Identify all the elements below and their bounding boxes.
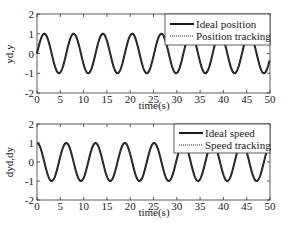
x-tick-label: 40 (218, 200, 230, 212)
y-tick-label: 0 (29, 48, 35, 60)
x-axis-label: time(s) (138, 99, 169, 112)
y-tick-label: -2 (25, 87, 34, 99)
x-axis-label: time(s) (138, 206, 169, 219)
x-tick-label: 45 (241, 93, 253, 105)
x-tick-label: 15 (101, 200, 113, 212)
y-tick-label: -1 (25, 175, 34, 187)
legend-entry-ideal-speed: Ideal speed (205, 127, 255, 139)
x-tick-label: 50 (265, 200, 277, 212)
x-tick-label: 10 (78, 93, 90, 105)
y-tick-label: -2 (25, 194, 34, 206)
speed-plot: 05101520253035404550-2-1012 time(s) dyd,… (3, 118, 276, 219)
legend: Ideal speed Speed tracking (174, 124, 271, 153)
x-tick-label: 35 (195, 93, 207, 105)
x-tick-label: 45 (241, 200, 253, 212)
x-tick-label: 15 (101, 93, 113, 105)
y-axis-label: yd,y (3, 44, 15, 64)
position-plot: 05101520253035404550-2-1012 time(s) yd,y… (3, 8, 276, 112)
x-tick-label: 40 (218, 93, 230, 105)
legend-entry-speed-tracking: Speed tracking (205, 139, 271, 151)
y-tick-label: 2 (29, 8, 35, 20)
y-tick-label: 1 (29, 28, 35, 40)
x-tick-label: 0 (34, 93, 40, 105)
legend: Ideal position Position tracking (165, 14, 271, 45)
x-tick-label: 30 (171, 200, 183, 212)
x-tick-label: 5 (58, 93, 64, 105)
x-tick-label: 20 (125, 93, 137, 105)
x-tick-label: 0 (34, 200, 40, 212)
x-tick-label: 10 (78, 200, 90, 212)
x-tick-label: 35 (195, 200, 207, 212)
y-tick-label: -1 (25, 67, 34, 79)
x-tick-label: 20 (125, 200, 137, 212)
y-axis-label: dyd,dy (3, 146, 15, 177)
x-tick-label: 50 (265, 93, 277, 105)
y-tick-label: 0 (29, 156, 35, 168)
y-tick-label: 1 (29, 137, 35, 149)
x-tick-label: 30 (171, 93, 183, 105)
legend-entry-ideal-position: Ideal position (196, 18, 257, 30)
legend-entry-position-tracking: Position tracking (196, 30, 271, 42)
y-tick-label: 2 (29, 118, 35, 130)
figure: 05101520253035404550-2-1012 time(s) yd,y… (0, 0, 290, 235)
x-tick-label: 5 (58, 200, 64, 212)
